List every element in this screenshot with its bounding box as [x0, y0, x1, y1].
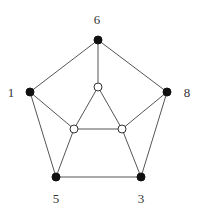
node-label-5: 5 [53, 191, 60, 206]
open-node-a [94, 83, 102, 91]
node-label-8: 8 [184, 85, 191, 100]
edge-5-b [56, 129, 74, 177]
edge-a-b [74, 87, 98, 129]
filled-node-8 [163, 88, 171, 96]
graph-edges [30, 40, 167, 177]
open-node-c [118, 125, 126, 133]
filled-node-5 [52, 173, 60, 181]
edge-1-b [30, 92, 74, 129]
edge-6-1 [30, 40, 98, 92]
node-label-1: 1 [8, 85, 15, 100]
graph-diagram: 61853 [0, 0, 203, 216]
filled-node-6 [94, 36, 102, 44]
edge-8-c [122, 92, 167, 129]
node-label-3: 3 [138, 191, 145, 206]
node-label-6: 6 [94, 12, 101, 27]
edge-3-c [122, 129, 141, 177]
edge-8-3 [141, 92, 167, 177]
open-node-b [70, 125, 78, 133]
filled-node-1 [26, 88, 34, 96]
edge-1-5 [30, 92, 56, 177]
filled-node-3 [137, 173, 145, 181]
edge-6-8 [98, 40, 167, 92]
edge-a-c [98, 87, 122, 129]
